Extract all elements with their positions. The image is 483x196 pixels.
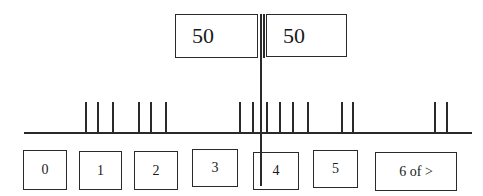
- slot-box-1: 1: [79, 151, 122, 190]
- value-box: 50: [175, 14, 258, 58]
- timeline-tick: [292, 102, 294, 132]
- timeline-tick: [352, 102, 354, 132]
- value-box-label: 50: [192, 23, 214, 49]
- value-box-label: 50: [283, 23, 305, 49]
- timeline-tick: [279, 102, 281, 132]
- timeline-tick: [97, 102, 99, 132]
- divider-line-double: [263, 14, 265, 58]
- timeline-tick: [446, 102, 448, 132]
- timeline-tick: [150, 102, 152, 132]
- timeline-tick: [307, 102, 309, 132]
- slot-box-5-label: 5: [332, 161, 339, 177]
- slot-box-3-label: 3: [212, 160, 219, 176]
- slot-box-2: 2: [134, 151, 178, 190]
- timeline-tick: [266, 102, 268, 132]
- timeline-tick: [434, 102, 436, 132]
- slot-box-5: 5: [313, 150, 358, 188]
- timeline-tick: [341, 102, 343, 132]
- slot-box-0: 0: [23, 150, 67, 190]
- slot-box-1-label: 1: [97, 163, 104, 179]
- timeline-tick: [85, 102, 87, 132]
- timeline-tick: [165, 102, 167, 132]
- slot-box-6-label: 6 of >: [399, 164, 433, 180]
- slot-box-4-label: 4: [273, 163, 280, 179]
- slot-box-2-label: 2: [153, 163, 160, 179]
- slot-box-6: 6 of >: [375, 152, 457, 191]
- divider-line: [260, 14, 262, 186]
- slot-box-0-label: 0: [42, 162, 49, 178]
- timeline-tick: [239, 102, 241, 132]
- timeline-tick: [252, 102, 254, 132]
- timeline-baseline: [24, 132, 472, 134]
- slot-box-3: 3: [192, 149, 238, 187]
- value-box: 50: [266, 14, 347, 57]
- timeline-tick: [138, 102, 140, 132]
- timeline-tick: [112, 102, 114, 132]
